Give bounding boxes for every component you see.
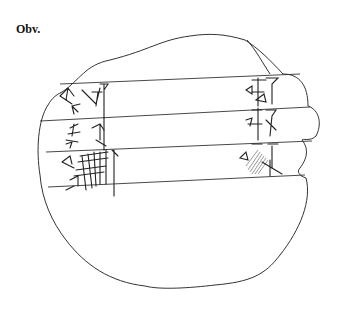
line3-left-signs [62,150,118,196]
ruling-lines [40,74,312,187]
line2-right-signs [246,108,276,140]
line1-right-signs [246,78,278,106]
tablet-drawing [0,0,338,313]
line1-left-signs [60,84,108,118]
line2-left-signs [66,118,106,150]
line3-right-signs [240,144,282,176]
